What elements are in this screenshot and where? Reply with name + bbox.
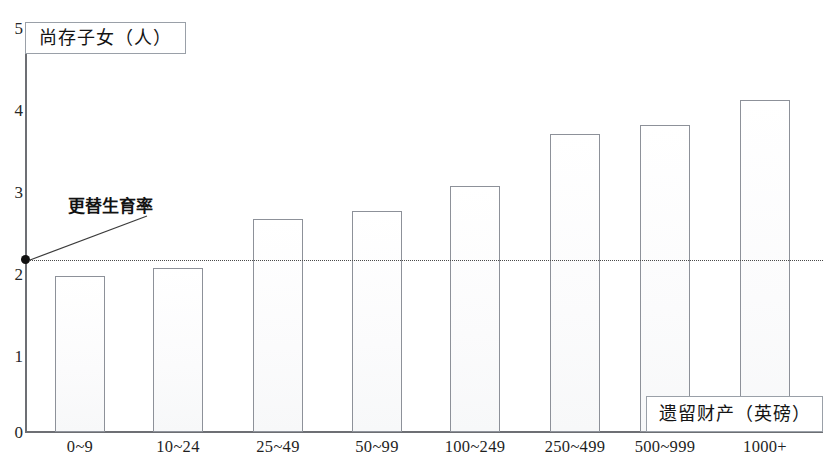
x-tick-label: 1000+ xyxy=(710,437,820,457)
x-tick-label: 50~99 xyxy=(322,437,432,457)
x-axis-title: 遗留财产（英磅） xyxy=(646,396,823,432)
bar xyxy=(253,219,303,432)
y-tick-label: 2 xyxy=(1,266,23,283)
y-tick-label: 5 xyxy=(1,20,23,37)
bar xyxy=(640,125,690,432)
bar xyxy=(153,268,203,432)
bar xyxy=(352,211,402,432)
bar-chart: 5 4 3 2 1 0 更替生育率 尚存子女（人） 遗留财产（英磅） 0~9 1… xyxy=(0,0,823,459)
replacement-rate-annotation-label: 更替生育率 xyxy=(68,196,153,216)
x-tick-label: 0~9 xyxy=(25,437,135,457)
y-tick-label: 0 xyxy=(1,424,23,441)
y-tick-label: 1 xyxy=(1,348,23,365)
x-tick-label: 10~24 xyxy=(123,437,233,457)
bar xyxy=(55,276,105,432)
x-tick-label: 25~49 xyxy=(223,437,333,457)
bar xyxy=(550,134,600,432)
x-tick-label: 500~999 xyxy=(610,437,720,457)
bar xyxy=(450,186,500,432)
y-tick-label: 4 xyxy=(1,102,23,119)
bar xyxy=(740,100,790,432)
y-axis-title: 尚存子女（人） xyxy=(25,22,186,54)
y-tick-label: 3 xyxy=(1,184,23,201)
y-axis-tick-labels: 5 4 3 2 1 0 xyxy=(0,0,23,459)
x-tick-label: 100~249 xyxy=(420,437,530,457)
